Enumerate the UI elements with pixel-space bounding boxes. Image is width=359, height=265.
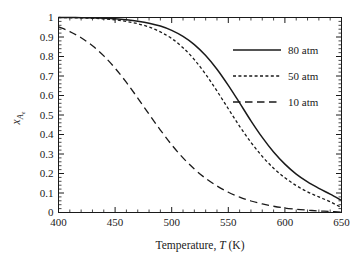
legend-label-10-atm: 10 atm <box>288 96 319 108</box>
y-tick-label: 0.5 <box>40 109 54 121</box>
y-tick-label: 0.7 <box>40 70 54 82</box>
x-tick-label: 500 <box>163 216 180 228</box>
x-tick-label: 650 <box>333 216 350 228</box>
y-tick-label: 0 <box>48 206 54 218</box>
x-axis-title: Temperature, T (K) <box>156 239 245 252</box>
y-tick-label: 1 <box>48 11 54 23</box>
y-axis-title: xAe <box>10 111 26 125</box>
y-tick-label: 0.6 <box>40 89 54 101</box>
y-tick-label: 0.9 <box>40 31 54 43</box>
y-tick-label: 0.1 <box>40 187 54 199</box>
y-tick-label: 0.3 <box>40 148 54 160</box>
line-chart: 400450500550600650 00.10.20.30.40.50.60.… <box>0 0 359 265</box>
y-tick-label: 0.8 <box>40 50 54 62</box>
x-axis-title-pre: Temperature, <box>156 239 220 252</box>
chart-figure: 400450500550600650 00.10.20.30.40.50.60.… <box>0 0 359 265</box>
legend-label-50-atm: 50 atm <box>288 70 319 82</box>
y-tick-label: 0.4 <box>40 128 54 140</box>
svg-text:xAe: xAe <box>10 111 26 125</box>
y-axis-title-subsubscript: e <box>19 111 26 114</box>
x-axis-tick-labels: 400450500550600650 <box>50 216 350 228</box>
y-tick-label: 0.2 <box>40 167 54 179</box>
x-axis-title-post: (K) <box>226 239 245 252</box>
x-tick-label: 600 <box>277 216 294 228</box>
x-tick-label: 450 <box>107 216 124 228</box>
y-axis-tick-labels: 00.10.20.30.40.50.60.70.80.91 <box>40 11 54 218</box>
x-tick-label: 550 <box>220 216 237 228</box>
legend: 80 atm50 atm10 atm <box>233 44 319 108</box>
legend-label-80-atm: 80 atm <box>288 44 319 56</box>
svg-text:Temperature, T (K): Temperature, T (K) <box>156 239 245 252</box>
